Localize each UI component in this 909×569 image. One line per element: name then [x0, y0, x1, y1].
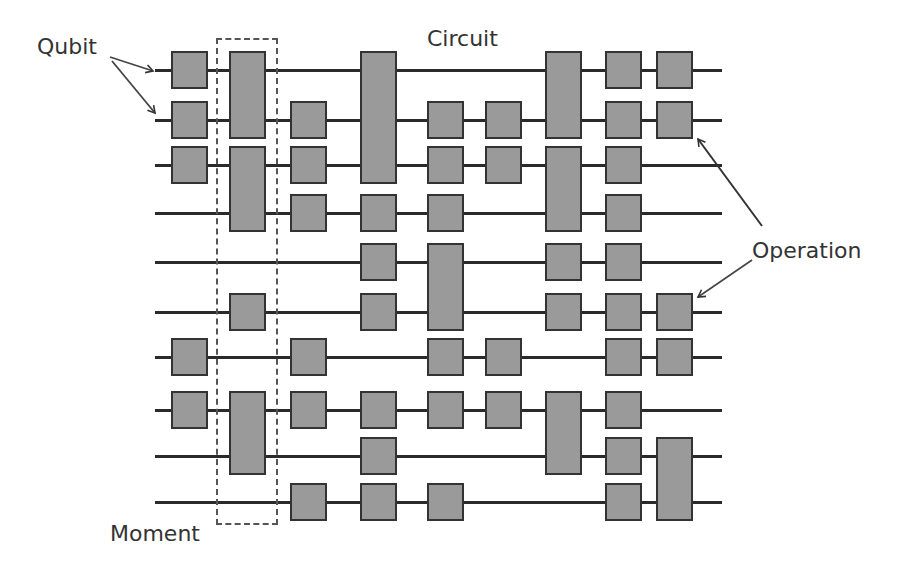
single-qubit-gate-c1-r7: [171, 338, 208, 376]
single-qubit-gate-c8-r6: [605, 293, 642, 331]
single-qubit-gate-c9-r6: [656, 293, 693, 331]
multi-qubit-gate-c7-r3-4: [545, 146, 582, 232]
single-qubit-gate-c5-r10: [427, 483, 464, 521]
single-qubit-gate-c4-r4: [360, 194, 397, 232]
single-qubit-gate-c8-r7: [605, 338, 642, 376]
single-qubit-gate-c5-r2: [427, 101, 464, 139]
single-qubit-gate-c3-r10: [290, 483, 327, 521]
single-qubit-gate-c9-r1: [656, 51, 693, 89]
multi-qubit-gate-c4-r1-2-3: [360, 51, 397, 184]
multi-qubit-gate-c5-r5-6: [427, 243, 464, 331]
single-qubit-gate-c6-r2: [485, 101, 522, 139]
single-qubit-gate-c5-r8: [427, 391, 464, 429]
single-qubit-gate-c8-r3: [605, 146, 642, 184]
multi-qubit-gate-c2-r3-4: [229, 146, 266, 232]
single-qubit-gate-c5-r7: [427, 338, 464, 376]
single-qubit-gate-c4-r5: [360, 243, 397, 281]
multi-qubit-gate-c2-r1-2: [229, 51, 266, 139]
quantum-circuit-diagram: Qubit Circuit Operation Moment: [0, 0, 909, 569]
multi-qubit-gate-c7-r1-2: [545, 51, 582, 139]
single-qubit-gate-c3-r2: [290, 101, 327, 139]
multi-qubit-gate-c9-r9-10: [656, 437, 693, 521]
single-qubit-gate-c4-r6: [360, 293, 397, 331]
single-qubit-gate-c1-r2: [171, 101, 208, 139]
single-qubit-gate-c3-r4: [290, 194, 327, 232]
qubit-arrow-1: [110, 57, 153, 71]
single-qubit-gate-c3-r3: [290, 146, 327, 184]
moment-label: Moment: [110, 523, 200, 545]
single-qubit-gate-c3-r8: [290, 391, 327, 429]
single-qubit-gate-c8-r5: [605, 243, 642, 281]
single-qubit-gate-c6-r7: [485, 338, 522, 376]
single-qubit-gate-c8-r1: [605, 51, 642, 89]
single-qubit-gate-c4-r8: [360, 391, 397, 429]
operation-arrow-2: [698, 260, 752, 297]
single-qubit-gate-c1-r1: [171, 51, 208, 89]
single-qubit-gate-c3-r7: [290, 338, 327, 376]
single-qubit-gate-c5-r3: [427, 146, 464, 184]
single-qubit-gate-c9-r7: [656, 338, 693, 376]
single-qubit-gate-c1-r8: [171, 391, 208, 429]
single-qubit-gate-c8-r10: [605, 483, 642, 521]
single-qubit-gate-c7-r5: [545, 243, 582, 281]
single-qubit-gate-c5-r4: [427, 194, 464, 232]
single-qubit-gate-c8-r4: [605, 194, 642, 232]
operation-label: Operation: [752, 240, 861, 262]
qubit-arrow-2: [112, 61, 155, 113]
qubit-label: Qubit: [37, 36, 97, 58]
single-qubit-gate-c4-r10: [360, 483, 397, 521]
single-qubit-gate-c8-r8: [605, 391, 642, 429]
single-qubit-gate-c8-r9: [605, 437, 642, 475]
single-qubit-gate-c6-r3: [485, 146, 522, 184]
single-qubit-gate-c2-r6: [229, 293, 266, 331]
circuit-title: Circuit: [427, 28, 498, 50]
single-qubit-gate-c7-r6: [545, 293, 582, 331]
single-qubit-gate-c4-r9: [360, 437, 397, 475]
multi-qubit-gate-c2-r8-9: [229, 391, 266, 475]
single-qubit-gate-c1-r3: [171, 146, 208, 184]
multi-qubit-gate-c7-r8-9: [545, 391, 582, 475]
single-qubit-gate-c6-r8: [485, 391, 522, 429]
single-qubit-gate-c9-r2: [656, 101, 693, 139]
single-qubit-gate-c8-r2: [605, 101, 642, 139]
